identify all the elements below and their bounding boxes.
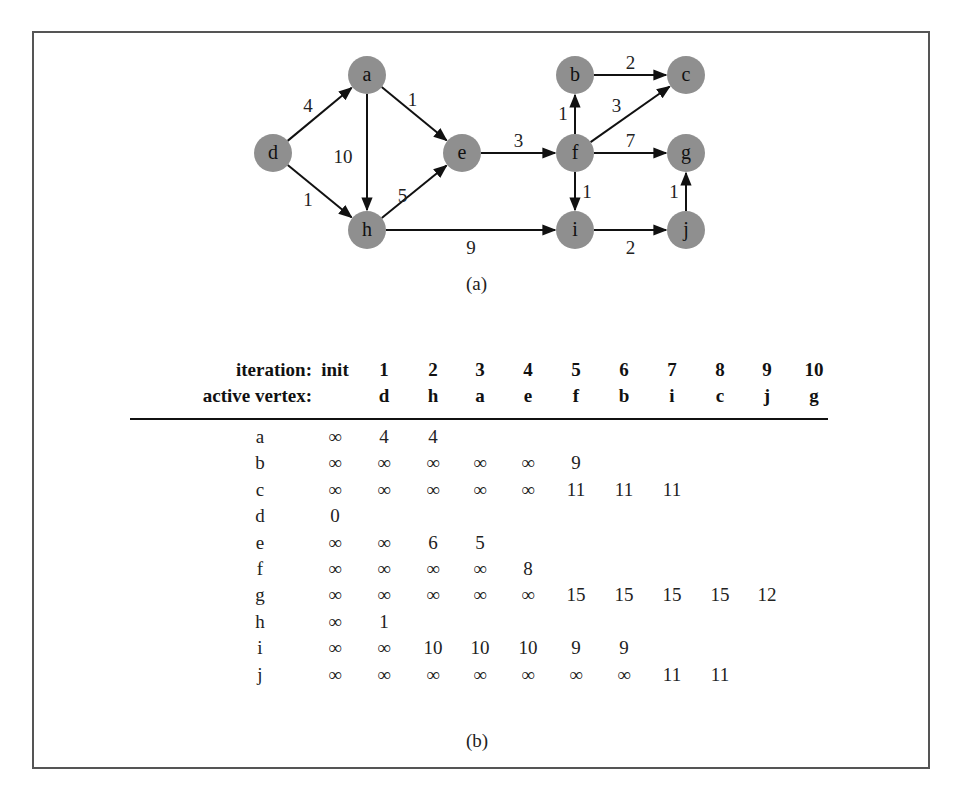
node-label-c: c xyxy=(682,63,691,85)
edge-weight-e-f: 3 xyxy=(514,130,524,151)
distance-cell: 11 xyxy=(558,479,594,501)
node-label-g: g xyxy=(681,141,691,164)
distance-cell: ∞ xyxy=(317,532,353,554)
distance-cell: ∞ xyxy=(317,584,353,606)
distance-cell: 15 xyxy=(654,584,690,606)
row-vertex-label: d xyxy=(250,505,270,527)
distance-cell: 8 xyxy=(510,558,546,580)
distance-cell: 6 xyxy=(415,532,451,554)
iteration-label: iteration: xyxy=(132,359,312,381)
distance-cell: 11 xyxy=(606,479,642,501)
edge-weight-a-h: 10 xyxy=(334,146,353,167)
distance-cell: ∞ xyxy=(366,479,402,501)
distance-cell: ∞ xyxy=(366,584,402,606)
node-label-i: i xyxy=(572,218,578,240)
distance-cell: 15 xyxy=(606,584,642,606)
distance-cell: ∞ xyxy=(366,637,402,659)
edge-weight-h-i: 9 xyxy=(466,237,476,258)
active-vertex-header: h xyxy=(415,385,451,407)
node-label-f: f xyxy=(572,141,579,163)
node-label-h: h xyxy=(362,218,372,240)
active-vertex-header: e xyxy=(510,385,546,407)
caption-a: (a) xyxy=(466,273,487,295)
row-vertex-label: j xyxy=(250,664,270,686)
distance-cell: 5 xyxy=(462,532,498,554)
row-vertex-label: g xyxy=(250,584,270,606)
distance-cell: ∞ xyxy=(510,584,546,606)
distance-cell: ∞ xyxy=(558,664,594,686)
distance-cell: 10 xyxy=(510,637,546,659)
caption-b: (b) xyxy=(466,730,488,752)
row-vertex-label: h xyxy=(250,611,270,633)
distance-cell: ∞ xyxy=(415,664,451,686)
distance-cell: 11 xyxy=(654,479,690,501)
distance-cell: 0 xyxy=(317,505,353,527)
row-vertex-label: i xyxy=(250,637,270,659)
table-header-rule xyxy=(130,418,828,420)
edge-weight-d-a: 4 xyxy=(303,95,313,116)
distance-cell: ∞ xyxy=(317,611,353,633)
distance-cell: ∞ xyxy=(366,664,402,686)
distance-cell: 12 xyxy=(749,584,785,606)
distance-cell: 9 xyxy=(558,452,594,474)
distance-cell: ∞ xyxy=(606,664,642,686)
active-vertex-header: g xyxy=(796,385,832,407)
edge-weight-f-b: 1 xyxy=(558,103,568,124)
distance-cell: 9 xyxy=(606,637,642,659)
distance-cell: 15 xyxy=(702,584,738,606)
distance-cell: ∞ xyxy=(510,479,546,501)
iteration-header: 5 xyxy=(558,359,594,381)
distance-cell: ∞ xyxy=(462,558,498,580)
row-vertex-label: c xyxy=(250,479,270,501)
distance-cell: ∞ xyxy=(317,664,353,686)
edge-weight-f-g: 7 xyxy=(626,130,636,151)
distance-cell: ∞ xyxy=(462,479,498,501)
distance-cell: ∞ xyxy=(462,584,498,606)
distance-cell: ∞ xyxy=(415,479,451,501)
iteration-header: 4 xyxy=(510,359,546,381)
iteration-header: 7 xyxy=(654,359,690,381)
row-vertex-label: a xyxy=(250,426,270,448)
edge-weight-a-e: 1 xyxy=(408,89,418,110)
active-vertex-header: b xyxy=(606,385,642,407)
edge-d-a xyxy=(288,88,352,141)
distance-cell: 4 xyxy=(366,426,402,448)
distance-cell: ∞ xyxy=(366,452,402,474)
distance-cell: 11 xyxy=(702,664,738,686)
distance-cell: ∞ xyxy=(510,664,546,686)
node-label-d: d xyxy=(268,141,278,163)
node-label-a: a xyxy=(363,63,372,85)
distance-cell: 4 xyxy=(415,426,451,448)
distance-cell: ∞ xyxy=(415,558,451,580)
edge-weight-b-c: 2 xyxy=(626,52,636,73)
graph-diagram: 411015391237121 abcdefghij xyxy=(0,0,958,300)
distance-cell: ∞ xyxy=(366,532,402,554)
distance-cell: ∞ xyxy=(366,558,402,580)
node-label-j: j xyxy=(682,218,689,241)
iteration-header: 10 xyxy=(796,359,832,381)
edge-weight-h-e: 5 xyxy=(398,185,408,206)
active-vertex-header: i xyxy=(654,385,690,407)
active-vertex-header: f xyxy=(558,385,594,407)
distance-cell: 10 xyxy=(462,637,498,659)
edge-weight-j-g: 1 xyxy=(669,181,679,202)
distance-cell: ∞ xyxy=(510,452,546,474)
iteration-header: init xyxy=(317,359,353,381)
distance-cell: 10 xyxy=(415,637,451,659)
node-label-e: e xyxy=(458,141,467,163)
distance-cell: ∞ xyxy=(317,426,353,448)
edge-weight-d-h: 1 xyxy=(303,189,313,210)
distance-cell: 15 xyxy=(558,584,594,606)
distance-cell: 11 xyxy=(654,664,690,686)
edge-weight-f-c: 3 xyxy=(612,95,622,116)
distance-cell: 9 xyxy=(558,637,594,659)
row-vertex-label: b xyxy=(250,452,270,474)
edge-weight-i-j: 2 xyxy=(626,237,636,258)
edge-h-e xyxy=(382,166,447,218)
distance-cell: ∞ xyxy=(317,479,353,501)
active-vertex-header: j xyxy=(749,385,785,407)
distance-cell: ∞ xyxy=(317,558,353,580)
iteration-header: 1 xyxy=(366,359,402,381)
active-vertex-header: a xyxy=(462,385,498,407)
iteration-header: 2 xyxy=(415,359,451,381)
